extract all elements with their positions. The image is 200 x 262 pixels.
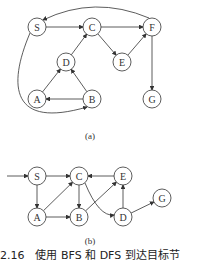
edge-b-C-D [85,183,114,215]
node-label: E [119,57,125,68]
edge-a-F-S [43,7,149,20]
edge-a-A-D [43,69,61,92]
edge-b-B-E [86,182,117,211]
edge-b-A-C [43,182,72,210]
node-label: B [76,212,83,223]
edge-b-D-G [131,202,154,213]
node-label: S [34,22,40,33]
node-label: S [34,171,40,182]
node-label: C [89,22,96,33]
node-label: G [158,193,165,204]
node-label: D [62,57,69,68]
node-label: A [33,94,41,105]
node-label: D [119,212,126,223]
edge-a-C-E [98,34,116,55]
edge-a-E-F [128,34,146,55]
edge-a-D-C [71,34,86,55]
node-label: F [149,22,155,33]
caption-b: (b) [0,236,180,246]
edge-a-B-D [71,69,87,91]
node-label: E [120,171,126,182]
node-label: C [76,171,83,182]
figure-caption: 2.16 使用 BFS 和 DFS 到达目标节 [0,246,200,262]
node-label: G [148,94,155,105]
node-label: A [33,212,41,223]
caption-a: (a) [0,131,180,141]
node-label: B [89,94,96,105]
